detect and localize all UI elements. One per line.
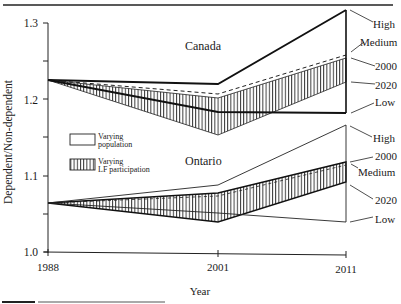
- canada-2020-annotation: 2020: [375, 79, 398, 91]
- y-axis: [43, 23, 48, 253]
- ontario-lf-band: [48, 162, 346, 222]
- canada-lf-band: [48, 58, 346, 135]
- ontario-2020-annotation: 2020: [375, 194, 398, 206]
- y-tick-1-2: 1.2: [24, 94, 39, 106]
- legend: [70, 134, 95, 170]
- y-tick-1-1: 1.1: [24, 170, 39, 182]
- x-axis-label: Year: [190, 285, 211, 297]
- canada-medium-annotation: Medium: [360, 36, 398, 48]
- legend-swatch-lf: [70, 159, 95, 170]
- ontario-label: Ontario: [185, 154, 222, 168]
- legend-population-line2: population: [98, 140, 132, 149]
- y-axis-label: Dependent/Non-dependent: [2, 79, 15, 204]
- canada-high-annotation: High: [373, 18, 396, 30]
- ontario-2000-annotation: 2000: [375, 150, 398, 162]
- canada-panel: [48, 10, 346, 135]
- legend-swatch-population: [70, 134, 95, 145]
- x-tick-2011: 2011: [335, 263, 357, 275]
- chart-canvas: 1.3 1.2 1.1 1.0 1988 2001 2011 Year Depe…: [0, 0, 401, 304]
- canada-2000-annotation: 2000: [375, 60, 398, 72]
- ontario-medium-annotation: Medium: [358, 166, 396, 178]
- ontario-high-annotation: High: [373, 132, 396, 144]
- x-axis: [44, 249, 346, 258]
- ontario-low-annotation: Low: [375, 213, 395, 225]
- canada-low-annotation: Low: [375, 96, 395, 108]
- legend-lf-line2: LF participation: [98, 165, 150, 174]
- y-tick-1-0: 1.0: [24, 246, 39, 258]
- x-tick-2001: 2001: [207, 261, 229, 273]
- x-tick-1988: 1988: [37, 261, 60, 273]
- y-tick-1-3: 1.3: [24, 17, 39, 29]
- canada-annotation-leaders: [350, 10, 375, 113]
- canada-label: Canada: [185, 39, 222, 53]
